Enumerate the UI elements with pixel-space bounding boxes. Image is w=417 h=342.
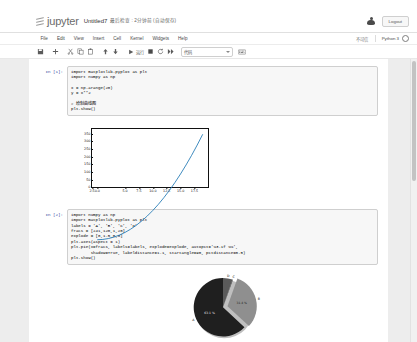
logout-button[interactable]: Logout [382, 16, 409, 27]
add-cell-icon[interactable] [51, 47, 60, 56]
move-cell-down-icon[interactable] [111, 47, 120, 56]
notebook-toolbar: 运行 代码 [0, 45, 417, 59]
y-tick-label: 250 [84, 147, 92, 151]
notebook-save-status: 最后检查 : 2分钟前 (自动保存) [110, 16, 176, 26]
vertical-scrollbar[interactable] [410, 59, 417, 342]
kernel-name-label: Python 3 [382, 36, 399, 41]
cell-output: 0 50 100 150 200 250 300 350 0.0 2.5 [39, 119, 378, 204]
menu-item-cell[interactable]: Cell [109, 34, 126, 43]
code-source: import matplotlib.pyplot as plt import n… [71, 70, 374, 113]
pie-slice-label: D [227, 274, 230, 278]
kernel-indicator[interactable]: Python 3 [375, 35, 409, 42]
pie-slice-percent: 31.4 % [236, 301, 247, 305]
cell-type-select[interactable]: 代码 [181, 47, 233, 57]
output-prompt [39, 268, 67, 342]
cut-icon[interactable] [66, 47, 75, 56]
restart-kernel-icon[interactable] [156, 47, 165, 56]
y-tick-label: 200 [84, 155, 92, 159]
menu-item-widgets[interactable]: Widgets [148, 34, 174, 43]
notebook-header: jupyter Untitled7 最后检查 : 2分钟前 (自动保存) Log… [0, 10, 417, 33]
menu-item-insert[interactable]: Insert [88, 34, 109, 43]
menu-item-kernel[interactable]: Kernel [126, 34, 148, 43]
code-cell[interactable]: In [1]: import matplotlib.pyplot as plt … [39, 66, 378, 116]
save-icon[interactable] [36, 47, 45, 56]
notebook-page: In [1]: import matplotlib.pyplot as plt … [29, 59, 388, 342]
menu-item-file[interactable]: File [36, 34, 52, 43]
line-plot-axes: 0 50 100 150 200 250 300 350 0.0 2.5 [91, 128, 209, 188]
notebook-title[interactable]: Untitled7 [84, 16, 108, 26]
line-plot-curve [92, 129, 208, 245]
cell-prompt: In [2]: [39, 209, 67, 265]
run-cell-label: 运行 [136, 49, 144, 55]
pie-slice-label: C [232, 275, 235, 279]
cell-output: A63.1 %B31.4 %CD [39, 268, 378, 342]
chevron-down-icon [226, 51, 230, 53]
y-tick-label: 350 [84, 132, 92, 136]
paste-icon[interactable] [86, 47, 95, 56]
code-editor[interactable]: import matplotlib.pyplot as plt import n… [67, 66, 378, 116]
jupyter-logo-text: jupyter [47, 16, 79, 27]
run-cell-button[interactable]: 运行 [126, 49, 146, 55]
kernel-idle-icon [402, 35, 409, 42]
menu-item-view[interactable]: View [69, 34, 88, 43]
y-tick-label: 150 [84, 162, 92, 166]
user-icon[interactable] [367, 17, 376, 26]
pie-chart-svg: A63.1 %B31.4 %CD [184, 271, 262, 342]
vertical-scrollbar-thumb[interactable] [412, 61, 416, 181]
jupyter-logo[interactable]: jupyter [36, 16, 79, 27]
pie-slice-percent: 63.1 % [204, 311, 215, 315]
pie-slice-label: B [257, 297, 259, 301]
keyboard-icon[interactable] [238, 47, 247, 56]
notebook-scroll-region: In [1]: import matplotlib.pyplot as plt … [0, 59, 417, 342]
output-prompt [39, 119, 67, 204]
line-plot-output: 0 50 100 150 200 250 300 350 0.0 2.5 [67, 122, 217, 204]
pie-chart-output: A63.1 %B31.4 %CD [163, 271, 283, 342]
y-tick-label: 300 [84, 139, 92, 143]
cell-type-value: 代码 [184, 49, 192, 55]
jupyter-logo-icon [36, 16, 45, 26]
pie-slice-label: A [192, 318, 195, 322]
trust-indicator[interactable]: 不可信 [356, 36, 375, 42]
cell-prompt: In [1]: [39, 66, 67, 116]
restart-run-all-icon[interactable] [166, 47, 175, 56]
code-cell[interactable]: In [2]: import numpy as np import matplo… [39, 209, 378, 265]
stop-icon[interactable] [146, 47, 155, 56]
menu-item-help[interactable]: Help [174, 34, 192, 43]
move-cell-up-icon[interactable] [101, 47, 110, 56]
menu-item-edit[interactable]: Edit [52, 34, 69, 43]
copy-icon[interactable] [76, 47, 85, 56]
browser-chrome-strip [0, 0, 417, 10]
y-tick-label: 100 [84, 170, 92, 174]
menu-bar: File Edit View Insert Cell Kernel Widget… [0, 33, 417, 45]
